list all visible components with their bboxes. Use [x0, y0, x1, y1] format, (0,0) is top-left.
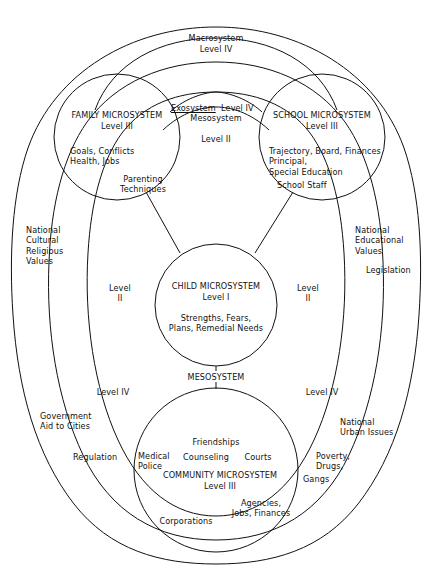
child-microsystem-circle — [155, 244, 277, 366]
diagram-line-art — [0, 0, 432, 567]
exosystem-outer-boundary — [49, 62, 384, 540]
connector-school-to-child — [255, 192, 293, 253]
mesosystem-label-backdrop — [184, 371, 249, 382]
school-microsystem-circle — [259, 74, 385, 200]
mesosystem-level-two-boundary — [87, 92, 345, 516]
family-microsystem-circle — [54, 74, 180, 200]
connector-family-to-child — [146, 192, 180, 253]
community-microsystem-circle — [134, 388, 298, 552]
ecological-systems-diagram: Macrosystem Level IV Exosystem Level IV … — [0, 0, 432, 567]
macrosystem-inner-arc — [95, 38, 337, 110]
macrosystem-outer-boundary — [11, 27, 420, 564]
